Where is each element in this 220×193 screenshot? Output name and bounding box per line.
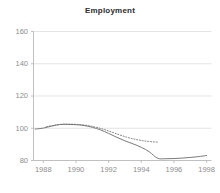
y-tick-label-120: 120 bbox=[15, 91, 28, 100]
series-line-trend bbox=[47, 124, 158, 142]
y-axis-tick-labels: 80100120140160 bbox=[15, 27, 28, 165]
chart-container: Employment 80100120140160 19881990199219… bbox=[0, 0, 220, 193]
x-tick-label-1998: 1998 bbox=[198, 165, 215, 174]
x-tick-label-1992: 1992 bbox=[100, 165, 117, 174]
x-tick-label-1990: 1990 bbox=[68, 165, 85, 174]
y-tick-label-140: 140 bbox=[15, 59, 28, 68]
y-tick-label-80: 80 bbox=[20, 156, 28, 165]
x-tick-label-1996: 1996 bbox=[166, 165, 183, 174]
x-tick-label-1994: 1994 bbox=[133, 165, 150, 174]
y-tick-label-160: 160 bbox=[15, 27, 28, 36]
x-axis-tick-labels: 198819901992199419961998 bbox=[35, 165, 215, 174]
gridlines bbox=[34, 32, 212, 129]
y-tick-label-100: 100 bbox=[15, 124, 28, 133]
series-lines bbox=[35, 124, 206, 159]
employment-line-chart: 80100120140160 198819901992199419961998 bbox=[0, 0, 220, 193]
x-tick-label-1988: 1988 bbox=[35, 165, 52, 174]
series-line-actual bbox=[35, 124, 206, 159]
